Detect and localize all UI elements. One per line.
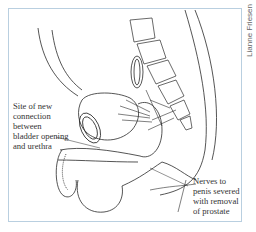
label-line: and urethra [13, 141, 69, 151]
label-line: Nerves to [193, 176, 240, 186]
label-line: of prostate [193, 206, 240, 216]
label-line: Site of new [13, 101, 69, 111]
illustrator-credit: Lianne Friesen [245, 4, 254, 57]
label-line: connection [13, 111, 69, 121]
label-line: between [13, 121, 69, 131]
label-line: bladder opening [13, 131, 69, 141]
label-new-connection: Site of new connection between bladder o… [13, 101, 69, 151]
label-nerves-severed: Nerves to penis severed with removal of … [193, 176, 240, 216]
sacrum [130, 18, 192, 130]
label-line: penis severed [193, 186, 240, 196]
label-line: with removal [193, 196, 240, 206]
